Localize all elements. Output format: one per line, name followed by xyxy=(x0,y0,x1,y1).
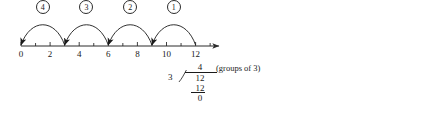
hop-number-badge: 4 xyxy=(36,0,50,14)
dividend-value: 12 xyxy=(191,73,209,83)
tick-label: 4 xyxy=(69,49,89,59)
number-line-division-diagram: 024681012 4321 3 4 12 12 0 (groups of 3) xyxy=(0,0,435,113)
divisor-value: 3 xyxy=(168,72,173,82)
hop-number-badge: 3 xyxy=(79,0,93,14)
tick-marks xyxy=(21,42,210,46)
hop-arc xyxy=(65,25,109,45)
quotient-value: 4 xyxy=(192,62,208,72)
tick-label: 6 xyxy=(98,49,118,59)
groups-note-label: (groups of 3) xyxy=(216,63,260,73)
tick-label: 10 xyxy=(157,49,177,59)
remainder-value: 0 xyxy=(191,93,209,103)
number-line-graphic xyxy=(0,0,435,62)
hop-arc xyxy=(108,25,152,45)
tick-label: 0 xyxy=(11,49,31,59)
tick-label: 2 xyxy=(40,49,60,59)
tick-label: 12 xyxy=(186,49,206,59)
hop-number-badge: 2 xyxy=(123,0,137,14)
hop-arcs xyxy=(21,25,196,45)
hop-arc xyxy=(152,25,196,45)
hop-arc xyxy=(21,25,65,45)
tick-label: 8 xyxy=(127,49,147,59)
hop-number-badge: 1 xyxy=(167,0,181,14)
